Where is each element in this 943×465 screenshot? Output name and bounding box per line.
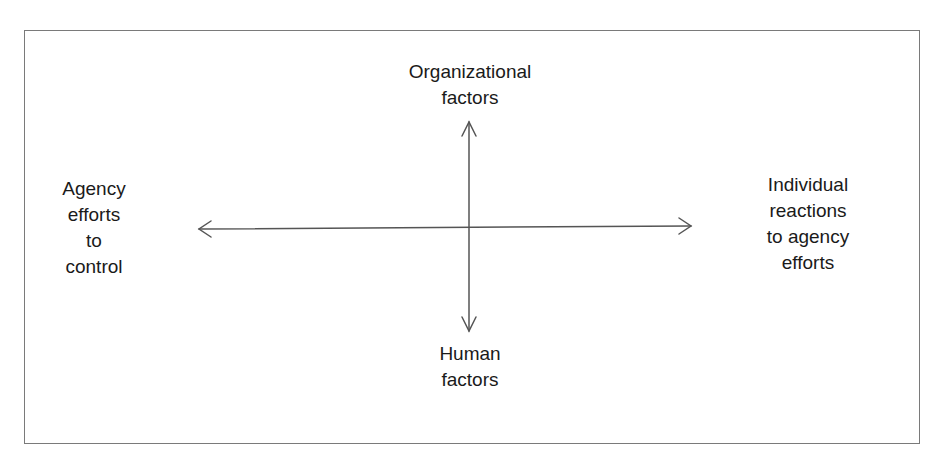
- label-bottom-human-factors: Human factors: [439, 341, 500, 393]
- label-line: efforts: [62, 202, 125, 228]
- label-line: Human: [439, 341, 500, 367]
- label-top-organizational-factors: Organizational factors: [409, 59, 532, 111]
- label-line: factors: [439, 367, 500, 393]
- horizontal-axis-line: [199, 226, 691, 229]
- label-left-agency-efforts: Agency efforts to control: [62, 176, 125, 280]
- label-right-individual-reactions: Individual reactions to agency efforts: [767, 172, 849, 276]
- label-line: Agency: [62, 176, 125, 202]
- label-line: to: [62, 228, 125, 254]
- label-line: to agency: [767, 224, 849, 250]
- label-line: efforts: [767, 250, 849, 276]
- label-line: Individual: [767, 172, 849, 198]
- label-line: control: [62, 254, 125, 280]
- label-line: reactions: [767, 198, 849, 224]
- label-line: Organizational: [409, 59, 532, 85]
- label-line: factors: [409, 85, 532, 111]
